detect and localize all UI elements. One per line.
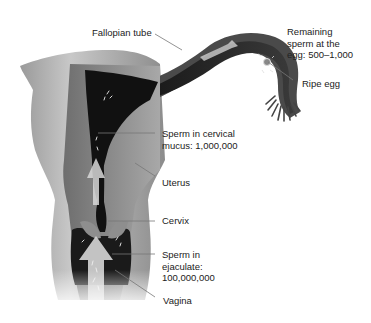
- label-cervical-mucus: Sperm in cervical mucus: 1,000,000: [162, 128, 238, 151]
- label-remaining-sperm: Remaining sperm at the egg: 500–1,000: [287, 26, 353, 61]
- label-ejaculate-line3: 100,000,000: [162, 272, 215, 284]
- label-fallopian-tube: Fallopian tube: [92, 27, 152, 39]
- ripe-egg: [264, 59, 271, 66]
- label-ejaculate-line2: ejaculate:: [162, 261, 215, 273]
- fallopian-tube: [150, 33, 300, 121]
- label-ejaculate-line1: Sperm in: [162, 249, 215, 261]
- label-ripe-egg: Ripe egg: [302, 78, 340, 90]
- label-cervix: Cervix: [162, 215, 189, 227]
- label-remaining-sperm-line3: egg: 500–1,000: [287, 49, 353, 61]
- label-uterus: Uterus: [162, 177, 190, 189]
- label-remaining-sperm-line2: sperm at the: [287, 38, 353, 50]
- label-remaining-sperm-line1: Remaining: [287, 26, 353, 38]
- label-vagina: Vagina: [163, 295, 192, 307]
- label-ejaculate: Sperm in ejaculate: 100,000,000: [162, 249, 215, 284]
- label-cervical-line2: mucus: 1,000,000: [162, 140, 238, 152]
- label-cervical-line1: Sperm in cervical: [162, 128, 238, 140]
